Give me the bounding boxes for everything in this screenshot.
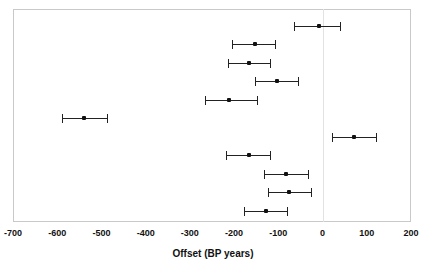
- zero-reference-line: [323, 9, 324, 222]
- x-tick-label: 200: [391, 228, 426, 238]
- x-tick-label: 0: [303, 228, 343, 238]
- plot-area-frame: [13, 9, 411, 222]
- x-tick-label: 100: [347, 228, 387, 238]
- x-tick-label: -700: [0, 228, 33, 238]
- x-tick-label: -300: [170, 228, 210, 238]
- x-tick-label: -100: [258, 228, 298, 238]
- x-tick-label: -400: [126, 228, 166, 238]
- x-tick-label: -500: [81, 228, 121, 238]
- offset-errorbar-chart: -700-600-500-400-300-200-1000100200 Offs…: [0, 0, 426, 271]
- x-tick-label: -600: [37, 228, 77, 238]
- x-tick-label: -200: [214, 228, 254, 238]
- x-axis-title: Offset (BP years): [0, 248, 426, 259]
